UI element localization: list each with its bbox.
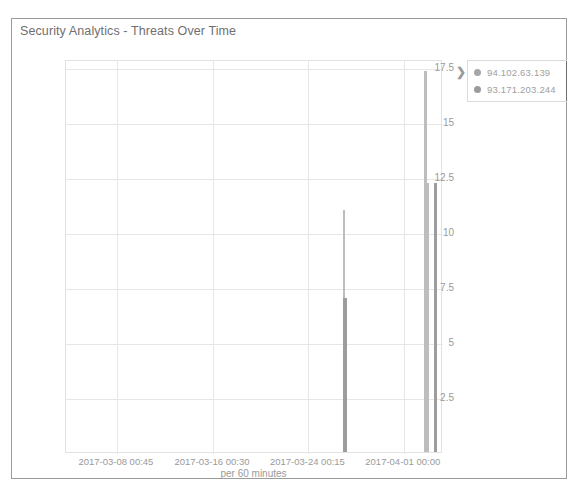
x-axis-tick-label: 2017-03-16 00:30 (174, 456, 249, 467)
gridline-horizontal (66, 69, 443, 70)
chart-panel: Security Analytics - Threats Over Time 1… (11, 18, 567, 479)
legend-color-swatch-icon (474, 69, 481, 76)
plot-area (65, 60, 442, 453)
gridline-horizontal (66, 344, 443, 345)
x-axis-tick-label: 2017-03-24 00:15 (270, 456, 345, 467)
chart-legend[interactable]: 94.102.63.13993.171.203.244 (467, 60, 567, 102)
legend-item[interactable]: 94.102.63.139 (468, 64, 567, 81)
y-axis-tick-label: 7.5 (420, 282, 454, 293)
legend-collapse-chevron-right-icon[interactable]: ❯ (456, 66, 466, 78)
gridline-vertical (308, 61, 309, 454)
y-axis-tick-label: 10 (420, 227, 454, 238)
screenshot-root: Security Analytics - Threats Over Time 1… (0, 0, 578, 495)
legend-color-swatch-icon (474, 86, 481, 93)
legend-divider (566, 61, 567, 101)
x-axis-tick-label: 2017-03-08 00:45 (78, 456, 153, 467)
gridline-horizontal (66, 124, 443, 125)
y-axis-tick-label: 15 (420, 117, 454, 128)
y-axis-tick-label: 17.5 (420, 62, 454, 73)
chart-area: 17.51512.5107.552.5 2017-03-08 00:452017… (12, 19, 568, 480)
gridline-vertical (213, 61, 214, 454)
legend-item[interactable]: 93.171.203.244 (468, 81, 567, 98)
gridline-horizontal (66, 399, 443, 400)
gridline-horizontal (66, 289, 443, 290)
y-axis-tick-label: 5 (420, 337, 454, 348)
x-axis-title: per 60 minutes (65, 468, 442, 479)
gridline-vertical (404, 61, 405, 454)
x-axis-tick-label: 2017-04-01 00:00 (365, 456, 440, 467)
legend-item-label: 94.102.63.139 (487, 67, 550, 78)
y-axis-tick-label: 2.5 (420, 392, 454, 403)
y-axis: 17.51512.5107.552.5 (410, 19, 454, 480)
gridline-horizontal (66, 179, 443, 180)
bar[interactable] (343, 298, 347, 452)
gridline-horizontal (66, 234, 443, 235)
legend-item-label: 93.171.203.244 (487, 84, 556, 95)
gridline-vertical (117, 61, 118, 454)
y-axis-tick-label: 12.5 (420, 172, 454, 183)
